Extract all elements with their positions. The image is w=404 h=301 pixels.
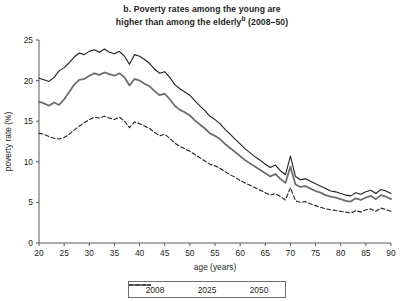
- x-axis-title: age (years): [194, 262, 237, 272]
- legend-item-2050: 2050: [250, 285, 269, 295]
- x-tick-label: 45: [160, 248, 170, 258]
- x-tick-label: 50: [185, 248, 195, 258]
- plot-area: 0510152025 20253035404550556065707580859…: [0, 0, 404, 301]
- legend-swatch-2050: [129, 282, 151, 288]
- y-axis-title: poverty rate (%): [3, 112, 13, 172]
- x-tick-label: 60: [235, 248, 245, 258]
- x-tick-label: 85: [361, 248, 371, 258]
- legend-label-2050: 2050: [250, 285, 269, 295]
- y-tick-label: 25: [24, 35, 34, 45]
- x-tick-label: 80: [336, 248, 346, 258]
- x-tick-label: 20: [34, 248, 44, 258]
- x-tick-label: 70: [286, 248, 296, 258]
- x-tick-label: 40: [135, 248, 145, 258]
- chart-legend: 200820252050: [128, 281, 286, 298]
- y-tick-label: 5: [28, 197, 33, 207]
- y-tick-label: 10: [24, 157, 34, 167]
- y-tick-label: 20: [24, 76, 34, 86]
- x-tick-label: 35: [110, 248, 120, 258]
- x-tick-label: 25: [59, 248, 69, 258]
- data-series-group: [39, 49, 391, 213]
- series-line-2025: [39, 72, 391, 201]
- chart-figure: b. Poverty rates among the young are hig…: [0, 0, 404, 301]
- y-tick-label: 15: [24, 116, 34, 126]
- y-axis-ticks: 0510152025: [24, 35, 39, 248]
- x-axis-ticks: 202530354045505560657075808590: [34, 243, 396, 258]
- x-tick-label: 90: [386, 248, 396, 258]
- x-tick-label: 75: [311, 248, 321, 258]
- x-tick-label: 65: [261, 248, 271, 258]
- x-tick-label: 30: [85, 248, 95, 258]
- x-tick-label: 55: [210, 248, 220, 258]
- y-tick-label: 0: [28, 238, 33, 248]
- series-line-2008: [39, 49, 391, 196]
- legend-item-2025: 2025: [198, 285, 217, 295]
- legend-label-2025: 2025: [198, 285, 217, 295]
